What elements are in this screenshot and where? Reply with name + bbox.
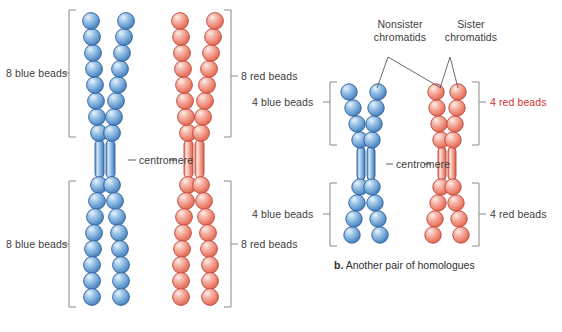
red-a-bottom-right-arm <box>193 177 219 306</box>
annotation-leaders <box>377 57 458 88</box>
bracket-b-top-right <box>472 82 479 145</box>
panel-b-caption: b. Another pair of homologues <box>334 259 475 271</box>
red-b-top-right-arm <box>445 84 466 148</box>
panel-b-blue-chromosome <box>341 84 388 243</box>
red-a-bottom-left-arm <box>173 177 197 306</box>
blue-b-bottom-right-arm <box>364 179 388 243</box>
sister-line-2: chromatids <box>445 31 497 43</box>
leader-sister-to-red-left <box>440 57 450 88</box>
bracket-b-top-left <box>330 82 337 145</box>
caption-b-prefix: b. <box>334 259 343 271</box>
label-a-centromere: centromere <box>139 154 193 166</box>
figure-canvas: 8 blue beads 8 blue beads 8 red beads 8 … <box>0 0 562 332</box>
label-nonsister-chromatids: Nonsister chromatids <box>366 18 434 43</box>
label-a-top-right-beads: 8 red beads <box>241 70 298 82</box>
bracket-a-bottom-left <box>69 181 76 307</box>
bracket-a-top-left <box>69 10 76 137</box>
leader-nonsister-to-red <box>388 57 441 88</box>
bracket-a-top-right <box>224 10 231 137</box>
caption-b-text: Another pair of homologues <box>343 259 474 271</box>
chromosome-diagram <box>0 0 562 332</box>
bracket-b-bottom-right <box>472 183 479 246</box>
sister-line-1: Sister <box>457 18 484 30</box>
red-b-bottom-right-arm <box>445 179 469 243</box>
label-b-bottom-left-beads: 4 blue beads <box>252 208 313 220</box>
leader-sister-to-red-right <box>450 57 458 88</box>
blue-a-top-left-arm <box>83 13 108 142</box>
leader-nonsister-to-blue <box>377 57 388 88</box>
bracket-b-bottom-left <box>330 183 337 246</box>
centromere-blue-b <box>357 147 375 180</box>
label-b-centromere: centromere <box>396 158 450 170</box>
label-a-top-left-beads: 8 blue beads <box>6 67 67 79</box>
label-b-top-left-beads: 4 blue beads <box>252 96 313 108</box>
blue-a-bottom-left-arm <box>84 177 108 306</box>
label-a-bottom-left-beads: 8 blue beads <box>6 238 67 250</box>
centromere-blue-a <box>95 140 115 178</box>
red-a-top-right-arm <box>193 13 224 142</box>
nonsister-line-1: Nonsister <box>377 18 422 30</box>
blue-a-top-right-arm <box>104 13 135 142</box>
red-a-top-left-arm <box>172 13 197 142</box>
blue-b-top-right-arm <box>364 84 386 148</box>
label-sister-chromatids: Sister chromatids <box>437 18 505 43</box>
panel-a-blue-chromosome <box>83 13 135 306</box>
label-b-top-right-beads: 4 red beads <box>490 96 547 108</box>
label-b-bottom-right-beads: 4 red beads <box>490 208 547 220</box>
bracket-a-bottom-right <box>224 181 231 307</box>
blue-a-bottom-right-arm <box>104 177 130 306</box>
nonsister-line-2: chromatids <box>374 31 426 43</box>
label-a-bottom-right-beads: 8 red beads <box>241 238 298 250</box>
